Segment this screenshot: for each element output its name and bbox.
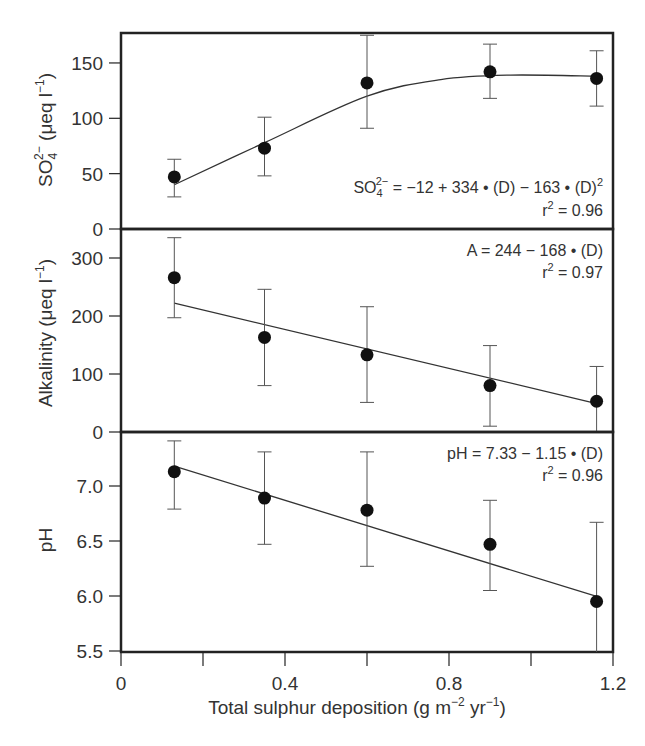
alkalinity-data-point <box>484 379 497 392</box>
sulphate-ytick-label: 50 <box>82 164 103 185</box>
alkalinity-equation: A = 244 − 168 • (D) <box>467 242 603 259</box>
ph-axis-label: pH <box>35 528 56 552</box>
ph-data-point <box>361 504 374 517</box>
alkalinity-r2: r2 = 0.97 <box>542 261 603 281</box>
x-axis-label: Total sulphur deposition (g m−2 yr−1) <box>208 695 506 718</box>
sulphate-data-point <box>361 76 374 89</box>
x-tick-label: 0.4 <box>272 673 299 694</box>
sulphate-data-point <box>258 142 271 155</box>
sulphate-data-point <box>484 65 497 78</box>
alkalinity-data-point <box>361 348 374 361</box>
ph-fit-line <box>174 466 596 596</box>
ph-data-point <box>590 595 603 608</box>
ph-ytick-label: 6.0 <box>77 586 103 607</box>
x-tick-label: 0 <box>116 673 127 694</box>
ph-ytick-label: 5.5 <box>77 641 103 662</box>
so4-axis-label: SO42− (μeq l−1) <box>32 73 60 187</box>
x-tick-label: 1.2 <box>600 673 626 694</box>
alkalinity-data-point <box>258 331 271 344</box>
sulphate-ytick-label: 150 <box>71 53 103 74</box>
sulphur-deposition-chart: 05010015001002003005.56.06.57.000.40.81.… <box>0 0 645 746</box>
sulphate-fit-curve <box>174 75 596 185</box>
ph-ytick-label: 7.0 <box>77 476 103 497</box>
alkalinity-ytick-label: 300 <box>71 248 103 269</box>
sulphate-data-point <box>590 72 603 85</box>
sulphate-ytick-label: 0 <box>92 219 103 240</box>
ph-data-point <box>168 465 181 478</box>
ph-data-point <box>258 492 271 505</box>
alkalinity-ytick-label: 200 <box>71 306 103 327</box>
ph-equation: pH = 7.33 − 1.15 • (D) <box>447 445 603 462</box>
alkalinity-data-point <box>168 271 181 284</box>
alkalinity-ytick-label: 100 <box>71 364 103 385</box>
ph-data-point <box>484 538 497 551</box>
x-tick-label: 0.8 <box>436 673 462 694</box>
alkalinity-axis-label: Alkalinity (μeq l−1) <box>33 259 56 407</box>
ph-r2: r2 = 0.96 <box>542 464 603 484</box>
ph-ytick-label: 6.5 <box>77 531 103 552</box>
alkalinity-data-point <box>590 395 603 408</box>
sulphate-ytick-label: 100 <box>71 108 103 129</box>
so4-equation: SO42− = −12 + 334 • (D) − 163 • (D)2 <box>353 175 603 199</box>
so4-r2: r2 = 0.96 <box>542 199 603 219</box>
alkalinity-fit-line <box>174 303 596 403</box>
alkalinity-ytick-label: 0 <box>92 422 103 443</box>
sulphate-data-point <box>168 170 181 183</box>
